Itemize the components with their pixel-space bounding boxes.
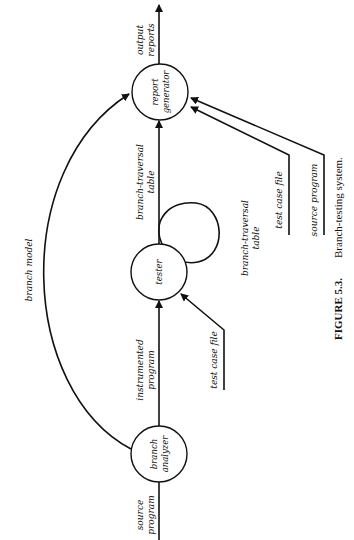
branch-analyzer-label-1: branch <box>149 439 159 469</box>
test-case-file-tester-label: test case file <box>209 331 219 388</box>
report-generator-node <box>132 64 188 120</box>
branch-model-arc <box>44 94 131 449</box>
test-case-file-report-label: test case file <box>274 171 284 228</box>
branch-traversal-table-label-2: table <box>146 171 156 194</box>
figure-number: FIGURE 5.3. <box>332 278 344 340</box>
report-generator-label-1: report <box>150 78 160 106</box>
output-reports-label-2: reports <box>146 23 156 57</box>
tester-label: tester <box>154 258 164 284</box>
source-program-label-2: program <box>146 495 156 534</box>
source-program-report-line <box>191 98 324 235</box>
instrumented-program-label-2: program <box>146 350 156 389</box>
source-program-report-label: source program <box>309 164 319 237</box>
loop-table-label-2: table <box>251 227 261 250</box>
report-generator-label-2: generator <box>161 70 171 114</box>
figure-caption: Branch-testing system. <box>332 157 344 258</box>
output-reports-label-1: output <box>135 25 145 55</box>
branch-analyzer-node <box>131 426 187 482</box>
loop-table-label-1: branch-traversal <box>240 200 250 276</box>
branch-traversal-table-label-1: branch-traversal <box>135 144 145 220</box>
branch-testing-diagram: report generator tester branch analyzer … <box>0 0 354 540</box>
branch-model-label: branch model <box>24 238 34 301</box>
source-program-label-1: source <box>135 500 145 531</box>
branch-analyzer-label-2: analyzer <box>160 435 170 473</box>
instrumented-program-label-1: instrumented <box>135 339 145 401</box>
